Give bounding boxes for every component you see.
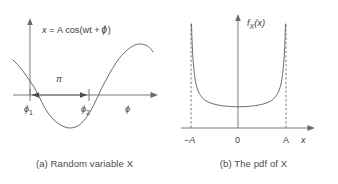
cosine-curve [13,44,153,128]
pdf-horizontal-axis-arrowhead [308,125,316,131]
cosine-plot: x=A cos(wt +ϕ) π ϕ1 ϕ2 ϕ [0,0,169,150]
pdf-plot: fX(x) −A 0 A x [169,0,338,150]
phi2-subscript: 2 [86,109,90,116]
pdf-x-axis-label: x [300,135,306,145]
figure-container: x=A cos(wt +ϕ) π ϕ1 ϕ2 ϕ (a) Random vari… [0,0,338,184]
panel-random-variable-x: x=A cos(wt +ϕ) π ϕ1 ϕ2 ϕ (a) Random vari… [0,0,169,184]
pdf-y-axis-label: fX(x) [247,17,265,30]
pdf-vertical-axis [235,14,241,128]
pi-span-indicator [30,89,89,101]
pdf-horizontal-axis [181,125,315,131]
tick-label-zero: 0 [235,135,240,145]
phi-axis-label: ϕ [125,104,130,114]
pdf-f-argument: (x) [254,17,265,28]
phi2-label: ϕ2 [81,104,90,116]
horizontal-axis-arrowhead [151,92,159,98]
pi-span-left-arrow [32,92,39,98]
equation-amplitude: A cos(wt + [57,25,100,35]
pdf-curve [192,24,286,107]
caption-panel-b: (b) The pdf of X [169,158,338,169]
equation-close-paren: ) [108,25,111,35]
equation-x: x [41,25,47,35]
tick-label-neg-a: −A [184,135,195,145]
vertical-axis-arrowhead [27,18,33,25]
equation-equals: = [49,25,54,35]
equation-label: x=A cos(wt +ϕ) [41,24,111,35]
tick-label-pos-a: A [283,135,289,145]
caption-panel-a: (a) Random variable X [0,158,169,169]
panel-pdf-of-x: fX(x) −A 0 A x (b) The pdf of X [169,0,338,184]
phi1-label: ϕ1 [24,104,33,116]
phi1-subscript: 1 [29,109,33,116]
pi-span-right-arrow [80,92,87,98]
pi-label: π [56,74,63,84]
pdf-vertical-axis-arrowhead [235,14,241,21]
